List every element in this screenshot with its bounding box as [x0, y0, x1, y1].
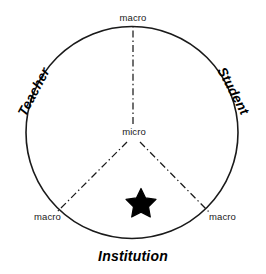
diagram-graphics	[0, 0, 266, 274]
divider-lower-left-line	[58, 142, 128, 212]
sector-label-institution: Institution	[98, 249, 168, 263]
diagram-canvas: macro micro macro macro Teacher Student …	[0, 0, 266, 274]
focus-star-icon	[126, 189, 156, 218]
macro-label-bottom-right: macro	[209, 212, 236, 222]
micro-label-center: micro	[122, 127, 146, 137]
macro-label-top: macro	[120, 13, 147, 23]
macro-label-bottom-left: macro	[34, 212, 61, 222]
